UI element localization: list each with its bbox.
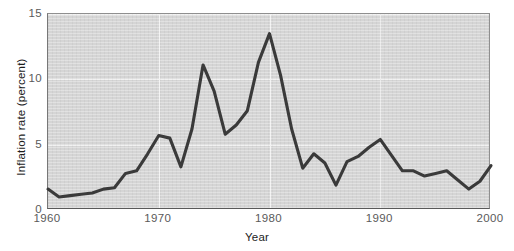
x-tick-1960: 1960 (33, 212, 60, 224)
inflation-rate-chart: 051015 Inflation rate (percent) 19601970… (0, 0, 514, 251)
x-tick-2000: 2000 (476, 212, 503, 224)
y-axis-label: Inflation rate (percent) (15, 42, 27, 192)
series-line-inflation-rate (48, 14, 491, 210)
x-tick-1970: 1970 (144, 212, 171, 224)
x-tick-1980: 1980 (255, 212, 282, 224)
y-tick-15: 15 (2, 7, 42, 19)
x-axis-label: Year (0, 231, 514, 243)
x-tick-1990: 1990 (366, 212, 393, 224)
plot-area (47, 13, 490, 209)
